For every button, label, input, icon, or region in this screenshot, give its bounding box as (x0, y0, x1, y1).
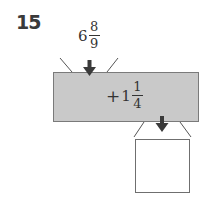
output-arrow-icon (156, 116, 169, 132)
machine-funnels (0, 0, 211, 205)
input-arrow-icon (83, 60, 96, 76)
